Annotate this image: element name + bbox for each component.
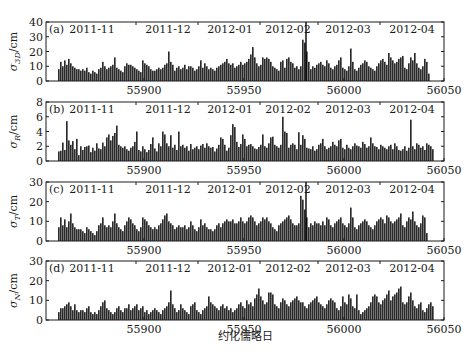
bar (404, 146, 406, 161)
bar-series (58, 117, 434, 161)
bar (296, 225, 298, 241)
bar (138, 150, 140, 161)
bar (412, 146, 414, 161)
bar (424, 312, 426, 320)
bar (72, 66, 74, 81)
bar (78, 69, 80, 81)
bar (318, 302, 320, 320)
bar (356, 294, 358, 320)
bar (286, 304, 288, 320)
bar (348, 66, 350, 81)
bar (60, 217, 62, 241)
bar (370, 227, 372, 241)
bar (140, 151, 142, 161)
bar (122, 148, 124, 161)
bar (328, 219, 330, 241)
bar (122, 72, 124, 81)
bar (76, 69, 78, 81)
bar (136, 304, 138, 320)
bar (348, 294, 350, 320)
bar (236, 66, 238, 81)
y-tick-label: 0 (36, 235, 43, 248)
bar (320, 304, 322, 320)
bar (358, 146, 360, 161)
bar (412, 60, 414, 81)
bar (136, 229, 138, 241)
bar (202, 225, 204, 241)
bar (360, 314, 362, 320)
bar (152, 137, 154, 161)
bar (394, 221, 396, 241)
bar (174, 308, 176, 320)
bar (338, 140, 340, 161)
bar (150, 69, 152, 81)
bar (256, 225, 258, 241)
bar (382, 59, 384, 81)
bar (136, 132, 138, 162)
bar (188, 227, 190, 241)
y-tick-label: 0 (36, 75, 43, 88)
panel-d: 010203055900559505600056050(d)2011-11201… (7, 255, 462, 336)
bar (426, 233, 428, 241)
bar (270, 137, 272, 161)
bar (406, 69, 408, 81)
bar (276, 146, 278, 161)
bar (386, 65, 388, 81)
bar (284, 300, 286, 320)
bar (350, 208, 352, 241)
bar (152, 310, 154, 320)
bar (96, 231, 98, 241)
bar (242, 221, 244, 241)
bar (134, 68, 136, 81)
bar (308, 227, 310, 241)
bar (400, 151, 402, 161)
bar (280, 223, 282, 241)
bar (332, 142, 334, 161)
bar (68, 140, 70, 161)
bar (140, 308, 142, 320)
bar (298, 69, 300, 81)
bar (252, 47, 254, 81)
bar (312, 300, 314, 320)
bar (274, 145, 276, 161)
bar (416, 308, 418, 320)
bar (162, 219, 164, 241)
bar (322, 65, 324, 81)
bar (296, 66, 298, 81)
bar (422, 215, 424, 241)
y-axis-label: σT/cm (7, 194, 22, 228)
bar (226, 306, 228, 320)
bar (220, 306, 222, 320)
bar (178, 225, 180, 241)
bar (424, 150, 426, 161)
bar (230, 135, 232, 161)
y-tick-label: 4 (36, 126, 43, 139)
bar (358, 310, 360, 320)
bar (226, 151, 228, 161)
y-tick-label: 30 (29, 176, 43, 189)
bar (82, 231, 84, 241)
bar (230, 308, 232, 320)
bar (232, 124, 234, 161)
bar (198, 66, 200, 81)
bar (202, 144, 204, 161)
bar (226, 59, 228, 81)
bar (308, 304, 310, 320)
bar (266, 302, 268, 320)
bar (420, 148, 422, 161)
bar (96, 314, 98, 320)
bar (222, 139, 224, 161)
bar (246, 221, 248, 241)
bar (180, 227, 182, 241)
bar (160, 314, 162, 320)
y-tick-label: 40 (29, 16, 43, 29)
bar (280, 62, 282, 81)
bar (334, 66, 336, 81)
bar (178, 132, 180, 162)
bar (248, 145, 250, 161)
bar (240, 302, 242, 320)
bar (250, 302, 252, 320)
bar (106, 227, 108, 241)
bar (252, 306, 254, 320)
bar (130, 219, 132, 241)
